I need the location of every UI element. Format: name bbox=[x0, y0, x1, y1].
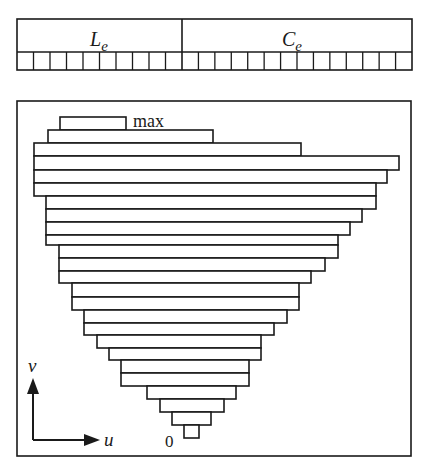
histogram-bar bbox=[109, 348, 261, 360]
diagram-canvas: Le Ce max 0 v u bbox=[0, 0, 428, 462]
zero-label: 0 bbox=[165, 432, 174, 451]
histogram-bar bbox=[121, 373, 249, 386]
histogram-bar bbox=[34, 143, 301, 156]
histogram-bar bbox=[59, 271, 311, 283]
histogram-bar bbox=[59, 245, 338, 258]
histogram-bar bbox=[34, 183, 376, 196]
header-strip: Le Ce bbox=[17, 19, 412, 70]
histogram-bar bbox=[48, 130, 213, 143]
u-axis-label: u bbox=[104, 429, 114, 450]
histogram-bar bbox=[147, 386, 236, 399]
histogram-bar bbox=[160, 399, 224, 412]
histogram-bar bbox=[34, 156, 399, 170]
histogram-bar bbox=[46, 196, 376, 209]
histogram-bar bbox=[60, 117, 126, 130]
histogram-bar bbox=[46, 222, 350, 235]
histogram-bar bbox=[84, 310, 287, 323]
histogram-bar bbox=[172, 412, 211, 425]
histogram-bar bbox=[184, 425, 199, 438]
v-axis-label: v bbox=[28, 355, 37, 376]
histogram-bar bbox=[46, 235, 338, 245]
histogram-bar bbox=[46, 209, 362, 222]
histogram-bar bbox=[72, 283, 299, 297]
histogram-bar bbox=[84, 323, 274, 335]
histogram-bar bbox=[97, 335, 261, 348]
max-label: max bbox=[133, 111, 164, 131]
histogram-bar bbox=[59, 258, 325, 271]
histogram-bar bbox=[121, 360, 249, 373]
histogram-bar bbox=[34, 170, 387, 183]
histogram-bar bbox=[72, 297, 299, 310]
